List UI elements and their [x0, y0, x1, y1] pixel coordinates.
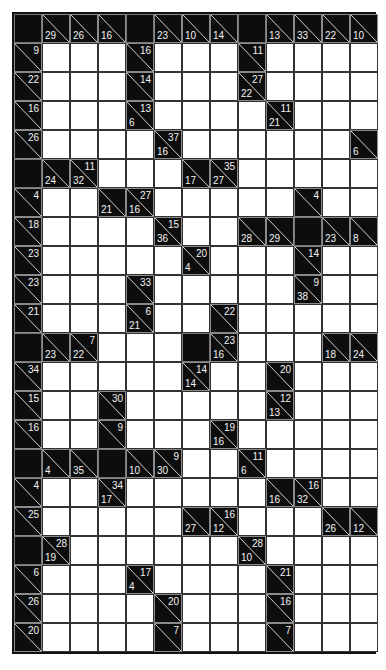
entry-cell[interactable]: [70, 478, 98, 507]
entry-cell[interactable]: [182, 43, 210, 72]
entry-cell[interactable]: [98, 43, 126, 72]
entry-cell[interactable]: [210, 246, 238, 275]
entry-cell[interactable]: [350, 304, 378, 333]
entry-cell[interactable]: [266, 43, 294, 72]
entry-cell[interactable]: [98, 304, 126, 333]
entry-cell[interactable]: [350, 246, 378, 275]
entry-cell[interactable]: [238, 507, 266, 536]
entry-cell[interactable]: [70, 623, 98, 652]
entry-cell[interactable]: [126, 333, 154, 362]
entry-cell[interactable]: [126, 420, 154, 449]
entry-cell[interactable]: [42, 362, 70, 391]
entry-cell[interactable]: [182, 478, 210, 507]
entry-cell[interactable]: [350, 623, 378, 652]
entry-cell[interactable]: [322, 623, 350, 652]
entry-cell[interactable]: [70, 565, 98, 594]
entry-cell[interactable]: [350, 536, 378, 565]
entry-cell[interactable]: [126, 362, 154, 391]
entry-cell[interactable]: [210, 478, 238, 507]
entry-cell[interactable]: [98, 333, 126, 362]
entry-cell[interactable]: [154, 188, 182, 217]
entry-cell[interactable]: [42, 43, 70, 72]
entry-cell[interactable]: [98, 536, 126, 565]
entry-cell[interactable]: [238, 304, 266, 333]
entry-cell[interactable]: [126, 594, 154, 623]
entry-cell[interactable]: [294, 362, 322, 391]
entry-cell[interactable]: [42, 72, 70, 101]
entry-cell[interactable]: [350, 362, 378, 391]
entry-cell[interactable]: [266, 188, 294, 217]
entry-cell[interactable]: [322, 275, 350, 304]
entry-cell[interactable]: [350, 449, 378, 478]
entry-cell[interactable]: [238, 130, 266, 159]
entry-cell[interactable]: [182, 101, 210, 130]
entry-cell[interactable]: [70, 101, 98, 130]
entry-cell[interactable]: [294, 536, 322, 565]
entry-cell[interactable]: [350, 188, 378, 217]
entry-cell[interactable]: [182, 449, 210, 478]
entry-cell[interactable]: [322, 478, 350, 507]
entry-cell[interactable]: [70, 72, 98, 101]
entry-cell[interactable]: [98, 130, 126, 159]
entry-cell[interactable]: [350, 72, 378, 101]
entry-cell[interactable]: [210, 101, 238, 130]
entry-cell[interactable]: [294, 130, 322, 159]
entry-cell[interactable]: [350, 420, 378, 449]
entry-cell[interactable]: [98, 72, 126, 101]
entry-cell[interactable]: [126, 507, 154, 536]
entry-cell[interactable]: [98, 362, 126, 391]
entry-cell[interactable]: [42, 420, 70, 449]
entry-cell[interactable]: [322, 304, 350, 333]
entry-cell[interactable]: [98, 101, 126, 130]
entry-cell[interactable]: [266, 246, 294, 275]
entry-cell[interactable]: [210, 130, 238, 159]
entry-cell[interactable]: [98, 565, 126, 594]
entry-cell[interactable]: [154, 536, 182, 565]
entry-cell[interactable]: [182, 188, 210, 217]
entry-cell[interactable]: [322, 449, 350, 478]
entry-cell[interactable]: [238, 594, 266, 623]
entry-cell[interactable]: [238, 362, 266, 391]
entry-cell[interactable]: [126, 391, 154, 420]
entry-cell[interactable]: [126, 159, 154, 188]
entry-cell[interactable]: [238, 333, 266, 362]
entry-cell[interactable]: [266, 420, 294, 449]
entry-cell[interactable]: [70, 594, 98, 623]
entry-cell[interactable]: [266, 304, 294, 333]
entry-cell[interactable]: [322, 391, 350, 420]
entry-cell[interactable]: [210, 565, 238, 594]
entry-cell[interactable]: [210, 536, 238, 565]
entry-cell[interactable]: [70, 536, 98, 565]
entry-cell[interactable]: [350, 594, 378, 623]
entry-cell[interactable]: [266, 507, 294, 536]
entry-cell[interactable]: [294, 565, 322, 594]
entry-cell[interactable]: [294, 72, 322, 101]
entry-cell[interactable]: [266, 159, 294, 188]
entry-cell[interactable]: [266, 72, 294, 101]
entry-cell[interactable]: [154, 420, 182, 449]
entry-cell[interactable]: [154, 304, 182, 333]
entry-cell[interactable]: [154, 72, 182, 101]
entry-cell[interactable]: [70, 304, 98, 333]
entry-cell[interactable]: [294, 391, 322, 420]
entry-cell[interactable]: [294, 159, 322, 188]
entry-cell[interactable]: [294, 623, 322, 652]
entry-cell[interactable]: [238, 246, 266, 275]
entry-cell[interactable]: [294, 449, 322, 478]
entry-cell[interactable]: [70, 246, 98, 275]
entry-cell[interactable]: [238, 391, 266, 420]
entry-cell[interactable]: [238, 188, 266, 217]
entry-cell[interactable]: [350, 101, 378, 130]
entry-cell[interactable]: [294, 304, 322, 333]
entry-cell[interactable]: [42, 623, 70, 652]
entry-cell[interactable]: [154, 333, 182, 362]
entry-cell[interactable]: [182, 217, 210, 246]
entry-cell[interactable]: [98, 246, 126, 275]
entry-cell[interactable]: [182, 72, 210, 101]
entry-cell[interactable]: [154, 246, 182, 275]
entry-cell[interactable]: [70, 362, 98, 391]
entry-cell[interactable]: [238, 101, 266, 130]
entry-cell[interactable]: [42, 130, 70, 159]
entry-cell[interactable]: [42, 594, 70, 623]
entry-cell[interactable]: [42, 304, 70, 333]
